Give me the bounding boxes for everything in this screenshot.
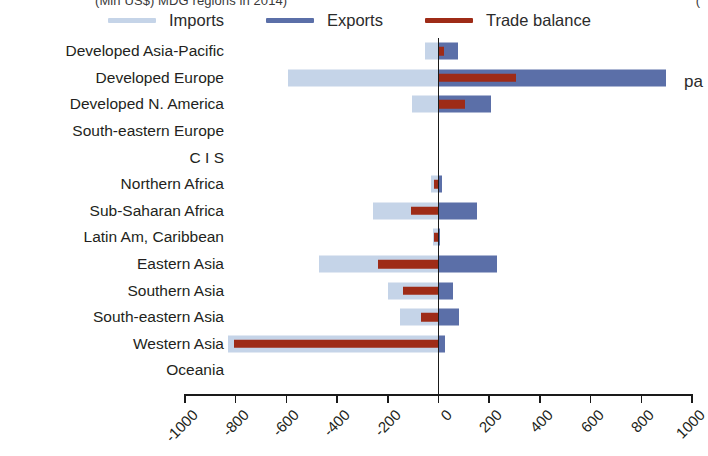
x-axis-tick-label: 800 (628, 406, 658, 436)
legend-label-balance: Trade balance (486, 11, 591, 30)
x-axis-tick-label: -1000 (162, 406, 201, 445)
bar-row: C I S (0, 144, 702, 171)
chart-caption-right-fragment: ( (696, 0, 700, 8)
bar-row: South-eastern Europe (0, 118, 702, 145)
bar-row: Oceania (0, 357, 702, 384)
category-label: Southern Asia (127, 282, 224, 300)
bar-exports (439, 256, 498, 273)
bar-row: Latin Am, Caribbean (0, 224, 702, 251)
x-axis-tick-label: 600 (577, 406, 607, 436)
x-axis-tick (438, 394, 440, 403)
x-axis-tick-label: -800 (218, 406, 251, 439)
category-label: C I S (190, 149, 224, 167)
x-axis-tick-label-wrap: 1000 (672, 406, 708, 442)
legend-swatch-imports-icon (108, 18, 156, 23)
x-axis-tick-label-wrap: 0 (437, 406, 455, 424)
chart-legend: ImportsExportsTrade balance (108, 11, 633, 30)
x-axis: -1000-800-600-400-20002004006008001000 (0, 394, 702, 456)
bar-trade-balance (403, 286, 439, 295)
chart-caption: (Mln US$) MDG regions in 2014) (95, 0, 287, 8)
bar-trade-balance (439, 100, 465, 109)
x-axis-tick-label-wrap: -400 (320, 406, 353, 439)
category-label: Developed Europe (96, 69, 224, 87)
bar-trade-balance (378, 260, 438, 269)
bar-trade-balance (421, 313, 439, 322)
x-axis-tick-label: -400 (320, 406, 353, 439)
legend-swatch-balance-icon (425, 18, 473, 23)
x-axis-tick-label-wrap: -200 (371, 406, 404, 439)
category-label: Northern Africa (121, 175, 224, 193)
x-axis-tick-label: 200 (475, 406, 505, 436)
x-axis-tick (488, 394, 490, 403)
x-axis-tick-label: -600 (269, 406, 302, 439)
bar-exports (439, 335, 445, 352)
x-axis-tick-label-wrap: 800 (628, 406, 658, 436)
category-label: Sub-Saharan Africa (90, 202, 224, 220)
category-label: Oceania (166, 361, 224, 379)
category-label: Western Asia (133, 335, 224, 353)
bar-imports (412, 96, 439, 113)
category-label: Developed Asia-Pacific (65, 42, 224, 60)
x-axis-tick-label-wrap: 400 (526, 406, 556, 436)
x-axis-tick-label: 400 (526, 406, 556, 436)
x-axis-tick (590, 394, 592, 403)
category-label: Developed N. America (70, 95, 224, 113)
legend-swatch-exports-icon (266, 18, 314, 23)
category-label: South-eastern Europe (72, 122, 224, 140)
category-label: South-eastern Asia (93, 308, 224, 326)
bar-row: Eastern Asia (0, 251, 702, 278)
legend-label-exports: Exports (327, 11, 383, 30)
bar-trade-balance (411, 207, 438, 216)
bar-row: Southern Asia (0, 277, 702, 304)
bar-exports (439, 202, 478, 219)
bar-row: Northern Africa (0, 171, 702, 198)
bar-imports (425, 43, 439, 60)
category-label: Eastern Asia (137, 255, 224, 273)
x-axis-tick (286, 394, 288, 403)
x-axis-tick (539, 394, 541, 403)
legend-item-exports: Exports (266, 11, 425, 30)
bar-row: Developed Europe (0, 65, 702, 92)
x-axis-tick (184, 394, 186, 403)
legend-label-imports: Imports (169, 11, 224, 30)
x-axis-tick-label-wrap: 600 (577, 406, 607, 436)
x-axis-tick-label: 1000 (672, 406, 708, 442)
bar-row: Developed Asia-Pacific (0, 38, 702, 65)
legend-item-balance: Trade balance (425, 11, 633, 30)
x-axis-tick-label-wrap: -600 (269, 406, 302, 439)
bar-row: Developed N. America (0, 91, 702, 118)
category-label: Latin Am, Caribbean (84, 228, 224, 246)
bar-imports (288, 69, 438, 86)
x-axis-tick-label: 0 (437, 406, 455, 424)
bar-row: Western Asia (0, 331, 702, 358)
bar-trade-balance (234, 340, 438, 349)
clipped-side-text: pa (684, 72, 703, 92)
x-axis-tick-label-wrap: -800 (218, 406, 251, 439)
bar-rows: Developed Asia-PacificDeveloped EuropeDe… (0, 38, 702, 386)
x-axis-tick (641, 394, 643, 403)
bar-trade-balance (439, 74, 517, 83)
legend-item-imports: Imports (108, 11, 266, 30)
x-axis-tick-label-wrap: 200 (475, 406, 505, 436)
x-axis-tick-label-wrap: -1000 (162, 406, 201, 445)
x-axis-tick (387, 394, 389, 403)
bar-exports (439, 309, 459, 326)
x-axis-tick-label: -200 (371, 406, 404, 439)
x-axis-tick (235, 394, 237, 403)
bar-exports (439, 282, 454, 299)
bar-trade-balance (439, 47, 445, 56)
plot-area: Developed Asia-PacificDeveloped EuropeDe… (0, 38, 702, 394)
x-axis-tick (691, 394, 693, 403)
zero-axis-line (438, 38, 440, 394)
x-axis-tick (336, 394, 338, 403)
bar-row: Sub-Saharan Africa (0, 198, 702, 225)
bar-row: South-eastern Asia (0, 304, 702, 331)
